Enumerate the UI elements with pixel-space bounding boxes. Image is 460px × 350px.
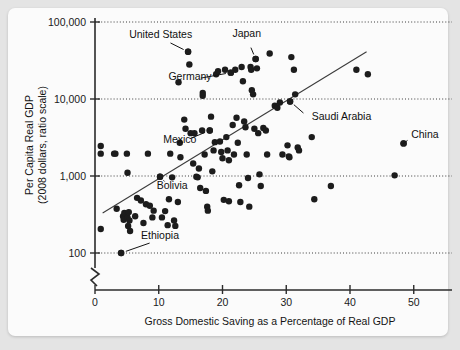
scatter-chart: 1001,00010,000100,000 01020304050 United… bbox=[0, 0, 460, 350]
data-point-group bbox=[98, 49, 407, 257]
data-point bbox=[292, 91, 298, 97]
data-point bbox=[124, 170, 130, 176]
data-point bbox=[254, 65, 260, 71]
data-point bbox=[264, 151, 270, 157]
data-point bbox=[194, 174, 200, 180]
data-point bbox=[138, 197, 144, 203]
data-point bbox=[124, 150, 130, 156]
x-tick-label-20: 20 bbox=[217, 296, 229, 308]
data-point bbox=[230, 122, 236, 128]
data-point bbox=[222, 67, 228, 73]
annotation-label: Ethiopia bbox=[141, 229, 179, 241]
x-axis-title: Gross Domestic Saving as a Percentage of… bbox=[145, 315, 396, 327]
data-point bbox=[240, 78, 246, 84]
data-point bbox=[98, 150, 104, 156]
annotation-label: Saudi Arabia bbox=[312, 110, 372, 122]
data-point bbox=[223, 134, 229, 140]
annotated-point bbox=[207, 127, 213, 133]
data-point bbox=[181, 116, 187, 122]
data-point bbox=[186, 61, 192, 67]
y-axis-break-symbol bbox=[91, 268, 99, 286]
data-point bbox=[218, 149, 224, 155]
data-point bbox=[263, 127, 269, 133]
data-point bbox=[159, 214, 165, 220]
annotation-label: Bolivia bbox=[157, 179, 188, 191]
data-point bbox=[177, 154, 183, 160]
y-tick-label-10000: 10,000 bbox=[54, 93, 86, 105]
x-tick-label-40: 40 bbox=[344, 296, 356, 308]
data-point bbox=[113, 206, 119, 212]
data-point bbox=[149, 214, 155, 220]
data-point bbox=[286, 154, 292, 160]
x-tick-label-0: 0 bbox=[92, 296, 98, 308]
data-point bbox=[167, 150, 173, 156]
data-point bbox=[210, 147, 216, 153]
x-axis-ticks: 01020304050 bbox=[92, 285, 420, 308]
data-point bbox=[309, 134, 315, 140]
data-point bbox=[328, 183, 334, 189]
x-tick-label-30: 30 bbox=[280, 296, 292, 308]
data-point bbox=[277, 99, 283, 105]
data-point bbox=[127, 228, 133, 234]
data-point bbox=[98, 226, 104, 232]
data-point bbox=[241, 118, 247, 124]
y-axis-ticks: 1001,00010,000100,000 bbox=[48, 16, 100, 259]
annotation-label: China bbox=[411, 128, 439, 140]
data-point bbox=[391, 172, 397, 178]
data-point bbox=[140, 220, 146, 226]
data-point bbox=[255, 130, 261, 136]
data-point bbox=[217, 138, 223, 144]
data-point bbox=[219, 155, 225, 161]
y-axis-title: Per Capita Real GDP (2008 dollars, ratio… bbox=[23, 86, 48, 204]
x-tick-label-50: 50 bbox=[408, 296, 420, 308]
data-point bbox=[226, 157, 232, 163]
data-point bbox=[197, 185, 203, 191]
y-axis-title-line1: Per Capita Real GDP bbox=[23, 95, 35, 195]
leader-line bbox=[126, 243, 150, 251]
leader-line bbox=[294, 105, 304, 113]
data-point bbox=[258, 183, 264, 189]
data-point bbox=[203, 188, 209, 194]
data-point bbox=[200, 93, 206, 99]
annotation-label: Germany bbox=[168, 70, 212, 82]
data-point bbox=[112, 150, 118, 156]
leader-line bbox=[251, 48, 254, 55]
data-point bbox=[284, 142, 290, 148]
trend-line bbox=[103, 52, 367, 213]
data-point bbox=[242, 124, 248, 130]
data-point bbox=[190, 160, 196, 166]
data-point bbox=[224, 147, 230, 153]
annotation-label: Japan bbox=[232, 27, 261, 39]
data-point bbox=[353, 67, 359, 73]
data-point bbox=[208, 113, 214, 119]
leader-line bbox=[170, 43, 183, 50]
data-point bbox=[246, 203, 252, 209]
data-point bbox=[162, 208, 168, 214]
data-point bbox=[166, 196, 172, 202]
annotation-label: Mexico bbox=[163, 133, 196, 145]
data-point bbox=[172, 223, 178, 229]
data-point bbox=[291, 67, 297, 73]
x-tick-label-10: 10 bbox=[153, 296, 165, 308]
data-point bbox=[248, 67, 254, 73]
data-point bbox=[126, 217, 132, 223]
data-point bbox=[205, 207, 211, 213]
data-point bbox=[235, 140, 241, 146]
data-point bbox=[311, 196, 317, 202]
data-point bbox=[150, 207, 156, 213]
data-point bbox=[164, 222, 170, 228]
data-point bbox=[132, 213, 138, 219]
data-point bbox=[233, 115, 239, 121]
data-point bbox=[215, 68, 221, 74]
data-point bbox=[196, 165, 202, 171]
data-point bbox=[175, 199, 181, 205]
annotation-label: United States bbox=[129, 28, 192, 40]
data-point bbox=[237, 199, 243, 205]
annotated-point bbox=[287, 98, 293, 104]
data-point bbox=[182, 126, 188, 132]
data-point bbox=[98, 143, 104, 149]
annotated-point bbox=[228, 69, 234, 75]
annotated-point bbox=[252, 56, 258, 62]
y-tick-label-100: 100 bbox=[68, 247, 86, 259]
data-point bbox=[238, 64, 244, 70]
